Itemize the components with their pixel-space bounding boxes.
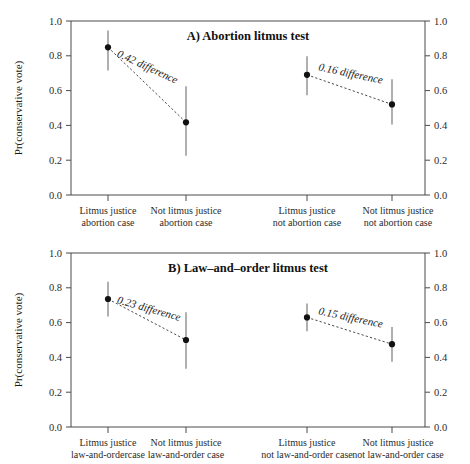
- panel-b-right-ticks: [425, 253, 430, 427]
- panel-b-cat4-line1: Not litmus justice: [362, 437, 434, 448]
- panel-b-ytick-1: 1.0: [49, 248, 62, 259]
- panel-a-datapoint-4: [389, 79, 395, 124]
- panel-b-ytick-5: 0.2: [49, 387, 62, 398]
- panel-b-xticks: [108, 427, 392, 433]
- panel-b: 1.0 0.8 0.6 0.4 0.2 0.0 1.0 0.8 0.6 0.4 …: [0, 232, 470, 464]
- panel-b-datapoint-1: [105, 282, 111, 317]
- panel-b-datapoint-3: [304, 304, 310, 332]
- panel-b-ytick-right-6: 0.0: [434, 422, 447, 433]
- panel-a-ytick-right-6: 0.0: [434, 190, 447, 201]
- panel-b-datapoint-4: [389, 327, 395, 362]
- panel-a-xticks: [108, 195, 392, 201]
- panel-a-datapoint-3: [304, 56, 310, 95]
- panel-a-datapoint-2: [183, 86, 189, 156]
- panel-b-cat3-line2: not law-and-order case: [261, 449, 353, 460]
- panel-b-plot: 1.0 0.8 0.6 0.4 0.2 0.0 1.0 0.8 0.6 0.4 …: [0, 232, 470, 464]
- panel-a-ylabel: Pr(conservative vote): [12, 60, 25, 155]
- panel-b-left-ticks: [66, 253, 71, 427]
- panel-b-datapoint-2: [183, 312, 189, 369]
- panel-a-difference-label-1: 0.42 difference: [115, 47, 180, 86]
- panel-a-ytick-right-4: 0.4: [434, 120, 448, 131]
- panel-a-datapoint-1: [105, 31, 111, 71]
- panel-a-category-label-2: Not litmus justice abortion case: [150, 205, 222, 228]
- panel-a-cat4-line2: not abortion case: [364, 217, 433, 228]
- panel-a-cat1-line1: Litmus justice: [80, 205, 138, 216]
- panel-a-ytick-right-5: 0.2: [434, 155, 447, 166]
- panel-b-ytick-right-4: 0.4: [434, 352, 448, 363]
- panel-b-ytick-right-2: 0.8: [434, 282, 447, 293]
- panel-b-ytick-3: 0.6: [49, 317, 62, 328]
- panel-b-difference-label-2: 0.15 difference: [318, 304, 385, 329]
- panel-a-category-label-4: Not litmus justice not abortion case: [362, 205, 434, 228]
- figure-root: 1.0 0.8 0.6 0.4 0.2 0.0 1.0 0.8 0.6 0.4 …: [0, 0, 470, 464]
- panel-b-category-label-4: Not litmus justice not law-and-order cas…: [352, 437, 444, 460]
- panel-b-cat2-line2: law-and-order case: [148, 449, 225, 460]
- panel-a-ytick-right-1: 1.0: [434, 16, 447, 27]
- panel-b-title: B) Law–and–order litmus test: [168, 261, 329, 275]
- panel-b-difference-label-1: 0.23 difference: [116, 293, 182, 323]
- panel-b-ytick-2: 0.8: [49, 282, 62, 293]
- panel-b-category-label-2: Not litmus justice law-and-order case: [148, 437, 225, 460]
- panel-b-cat4-line2: not law-and-order case: [352, 449, 444, 460]
- panel-a-ytick-1: 1.0: [49, 16, 62, 27]
- panel-b-ytick-4: 0.4: [49, 352, 63, 363]
- panel-a: 1.0 0.8 0.6 0.4 0.2 0.0 1.0 0.8 0.6 0.4 …: [0, 0, 470, 232]
- panel-b-cat3-line1: Litmus justice: [279, 437, 337, 448]
- panel-a-ytick-5: 0.2: [49, 155, 62, 166]
- panel-b-cat1-line1: Litmus justice: [80, 437, 138, 448]
- panel-a-ytick-right-3: 0.6: [434, 85, 447, 96]
- panel-b-ytick-6: 0.0: [49, 422, 62, 433]
- panel-a-cat2-line2: abortion case: [159, 217, 213, 228]
- panel-a-cat2-line1: Not litmus justice: [150, 205, 222, 216]
- panel-b-cat1-line2: law-and-ordercase: [71, 449, 145, 460]
- panel-a-cat1-line2: abortion case: [81, 217, 135, 228]
- panel-a-plot: 1.0 0.8 0.6 0.4 0.2 0.0 1.0 0.8 0.6 0.4 …: [0, 0, 470, 232]
- panel-b-ytick-right-1: 1.0: [434, 248, 447, 259]
- panel-a-ytick-2: 0.8: [49, 50, 62, 61]
- panel-a-cat3-line2: not abortion case: [273, 217, 342, 228]
- panel-b-ylabel: Pr(conservative vote): [12, 292, 25, 387]
- panel-a-title: A) Abortion litmus test: [187, 29, 310, 43]
- panel-a-cat3-line1: Litmus justice: [279, 205, 337, 216]
- panel-a-left-ticks: [66, 21, 71, 195]
- panel-a-category-label-1: Litmus justice abortion case: [80, 205, 138, 228]
- panel-b-cat2-line1: Not litmus justice: [150, 437, 222, 448]
- panel-a-difference-label-2: 0.16 difference: [318, 60, 385, 85]
- panel-b-category-label-1: Litmus justice law-and-ordercase: [71, 437, 145, 460]
- panel-b-category-label-3: Litmus justice not law-and-order case: [261, 437, 353, 460]
- panel-a-ytick-right-2: 0.8: [434, 50, 447, 61]
- panel-a-right-ticks: [425, 21, 430, 195]
- panel-b-ytick-right-5: 0.2: [434, 387, 447, 398]
- panel-a-ytick-3: 0.6: [49, 85, 62, 96]
- panel-a-ytick-6: 0.0: [49, 190, 62, 201]
- panel-a-ytick-4: 0.4: [49, 120, 63, 131]
- panel-a-category-label-3: Litmus justice not abortion case: [273, 205, 342, 228]
- panel-b-ytick-right-3: 0.6: [434, 317, 447, 328]
- panel-a-cat4-line1: Not litmus justice: [362, 205, 434, 216]
